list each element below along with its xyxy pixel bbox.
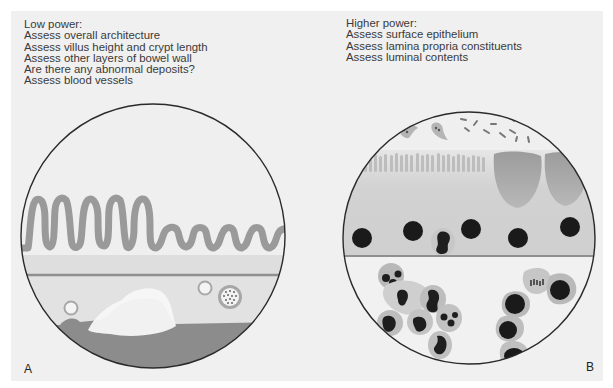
panel-a-label: A [24,362,32,376]
panel-b-field-of-view [340,112,600,376]
panel-b-label: B [586,360,594,374]
microscopy-illustrations [0,0,613,388]
lamina-propria-band [20,255,290,275]
blood-vessel-icon [199,282,212,295]
panel-a-field-of-view [20,104,290,380]
intraepithelial-neutrophil [431,228,455,256]
vessel-with-deposit-icon [218,285,242,309]
blood-vessel-icon [65,302,78,315]
